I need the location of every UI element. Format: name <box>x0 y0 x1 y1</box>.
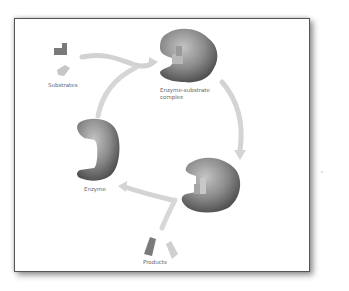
label-complex-line1: Enzyme-substrate <box>160 87 210 94</box>
arrow-substrates-to-complex <box>82 55 158 68</box>
substrate-shapes <box>54 43 70 76</box>
enzyme-shape <box>77 119 119 181</box>
arrow-product-complex-to-products <box>162 200 175 228</box>
stray-dot <box>321 171 322 172</box>
arrow-product-complex-to-enzyme <box>118 181 172 200</box>
label-products: Products <box>143 259 167 266</box>
label-substrates: Substrates <box>48 82 78 89</box>
enzyme-product-complex-shape <box>182 158 240 213</box>
arrow-complex-to-product-complex <box>222 82 246 160</box>
arrow-enzyme-to-complex <box>98 68 135 116</box>
figure-stage: Substrates Enzyme-substrate complex Enzy… <box>0 0 349 291</box>
product-shapes <box>144 237 178 259</box>
label-complex-line2: complex <box>160 94 183 101</box>
label-enzyme: Enzyme <box>84 186 106 193</box>
enzyme-cycle-diagram <box>0 0 349 291</box>
enzyme-substrate-complex-shape <box>160 29 217 83</box>
